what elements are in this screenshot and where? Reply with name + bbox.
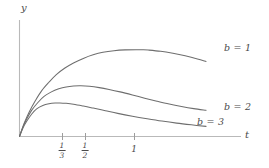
x-tick-label-one-third: 1 3	[59, 142, 66, 160]
x-tick-label-one: 1	[131, 145, 137, 154]
fraction-one-half: 1 2	[82, 142, 89, 159]
fraction-numerator: 1	[59, 142, 66, 150]
plot-canvas	[0, 0, 269, 168]
fraction-denominator: 2	[82, 152, 89, 160]
curve-b-3	[20, 103, 207, 137]
fraction-one-third: 1 3	[59, 142, 66, 159]
curve-b-2	[20, 86, 207, 137]
series-label-b-3: b = 3	[197, 117, 224, 127]
fraction-denominator: 3	[59, 152, 66, 160]
x-tick-label-one-half: 1 2	[82, 142, 89, 160]
series-label-b-2: b = 2	[224, 102, 251, 112]
x-axis-label: t	[245, 130, 249, 140]
series-label-b-1: b = 1	[224, 43, 251, 53]
tick-value-one: 1	[131, 144, 137, 154]
y-axis-label: y	[21, 3, 27, 13]
fraction-numerator: 1	[82, 142, 89, 150]
function-plot-figure: y t b = 1 b = 2 b = 3 1 3 1 2 1	[0, 0, 269, 168]
curves-group	[20, 50, 207, 137]
